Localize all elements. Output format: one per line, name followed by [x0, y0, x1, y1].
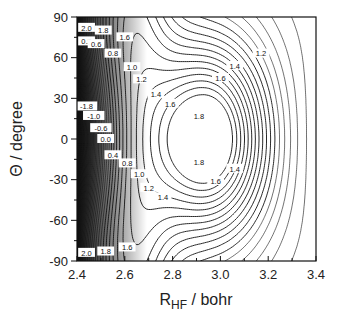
- contour-label: -0.6: [90, 123, 111, 133]
- svg-text:1.4: 1.4: [230, 165, 240, 174]
- contour-label: 1.6: [162, 99, 179, 109]
- svg-text:0.6: 0.6: [91, 40, 101, 49]
- y-tick-label: 30: [54, 91, 68, 106]
- svg-text:1.8: 1.8: [194, 158, 204, 167]
- contour-label: 2.0: [78, 23, 95, 33]
- y-tick-label: -30: [49, 172, 68, 187]
- svg-text:1.0: 1.0: [127, 63, 137, 72]
- contour-label: 0.0: [97, 134, 114, 144]
- contour-label: 1.0: [124, 62, 141, 72]
- contour-label: -1.0: [83, 111, 104, 121]
- contour-label: 1.4: [226, 164, 243, 174]
- contour-label: 1.8: [190, 157, 207, 167]
- svg-text:1.2: 1.2: [143, 184, 153, 193]
- svg-text:1.6: 1.6: [210, 177, 220, 186]
- contour-label: 1.6: [116, 32, 133, 42]
- svg-text:1.8: 1.8: [98, 26, 108, 35]
- svg-text:1.2: 1.2: [136, 75, 146, 84]
- svg-text:1.4: 1.4: [151, 90, 161, 99]
- contour-label: 1.8: [97, 247, 114, 257]
- svg-text:2.0: 2.0: [81, 249, 91, 258]
- x-tick-label: 2.6: [116, 267, 134, 282]
- contour-label: 2.0: [78, 248, 95, 258]
- svg-text:1.4: 1.4: [230, 62, 240, 71]
- contour-label: 1.2: [133, 74, 150, 84]
- contour-label: 0.8: [104, 49, 121, 59]
- contour-label: 1.2: [140, 183, 157, 193]
- svg-text:1.8: 1.8: [100, 247, 110, 256]
- svg-text:1.2: 1.2: [256, 49, 266, 58]
- svg-text:1.8: 1.8: [194, 112, 204, 121]
- contour-label: 1.4: [226, 61, 243, 71]
- svg-text:-1.0: -1.0: [87, 112, 100, 121]
- contour-label: 1.4: [147, 89, 164, 99]
- x-tick-label: 2.4: [68, 267, 86, 282]
- contour-label: 1.0: [131, 169, 148, 179]
- y-tick-label: -60: [49, 213, 68, 228]
- svg-text:1.0: 1.0: [134, 170, 144, 179]
- contour-label: 1.6: [119, 242, 136, 252]
- x-tick-label: 3.2: [259, 267, 277, 282]
- svg-text:1.6: 1.6: [215, 74, 225, 83]
- svg-text:0.0: 0.0: [100, 135, 110, 144]
- svg-text:1.6: 1.6: [120, 33, 130, 42]
- y-tick-label: 0: [61, 132, 68, 147]
- svg-text:-0.6: -0.6: [94, 124, 107, 133]
- contour-label: 0.8: [119, 158, 136, 168]
- x-axis-title: RHF / bohr: [160, 291, 234, 312]
- svg-text:0.8: 0.8: [122, 159, 132, 168]
- contour-label: 1.8: [95, 26, 112, 36]
- svg-text:0.8: 0.8: [108, 49, 118, 58]
- svg-text:1.6: 1.6: [122, 243, 132, 252]
- svg-text:-1.8: -1.8: [80, 102, 93, 111]
- contour-line: [150, 81, 240, 197]
- contour-label: 1.6: [212, 73, 229, 83]
- x-tick-label: 3.0: [211, 267, 229, 282]
- svg-text:2.0: 2.0: [81, 24, 91, 33]
- y-tick-label: 60: [54, 50, 68, 65]
- plot-area: 2.01.81.60.20.60.81.01.21.41.61.81.61.41…: [76, 17, 307, 261]
- x-tick-label: 2.8: [164, 267, 182, 282]
- contour-label: 1.6: [207, 176, 224, 186]
- y-tick-label: -90: [49, 254, 68, 269]
- contour-label: 1.4: [155, 192, 172, 202]
- contour-label: 1.8: [190, 111, 207, 121]
- y-axis-title: Θ / degree: [8, 101, 25, 177]
- contour-label: 0.4: [104, 150, 121, 160]
- svg-text:1.6: 1.6: [165, 100, 175, 109]
- svg-text:0.4: 0.4: [108, 151, 118, 160]
- y-tick-label: 90: [54, 10, 68, 25]
- contour-label: -1.8: [76, 101, 97, 111]
- y-axis: 9060300-30-60-90: [49, 10, 77, 269]
- svg-text:1.4: 1.4: [158, 193, 168, 202]
- contour-label: 0.6: [88, 39, 105, 49]
- x-tick-label: 3.4: [307, 267, 325, 282]
- contour-chart: 2.01.81.60.20.60.81.01.21.41.61.81.61.41…: [0, 0, 341, 319]
- contour-line: [167, 95, 232, 184]
- contour-label: 1.2: [253, 49, 270, 59]
